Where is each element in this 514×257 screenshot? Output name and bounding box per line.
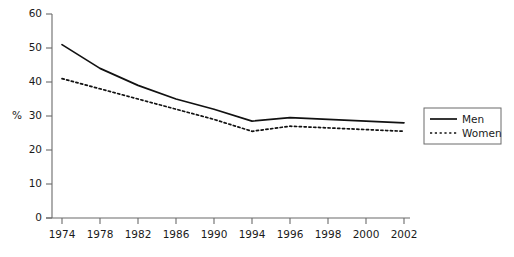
x-tick-label-2000: 2000: [353, 228, 380, 240]
legend-label-men: Men: [462, 113, 484, 125]
y-tick-label-30: 30: [29, 109, 42, 121]
x-tick-label-1998: 1998: [315, 228, 342, 240]
y-axis-tick-labels: 60 50 40 30 20 10 0: [29, 7, 42, 223]
x-tick-label-1986: 1986: [163, 228, 190, 240]
legend-label-women: Women: [462, 127, 502, 139]
series-line-women: [62, 79, 404, 132]
x-axis-tick-labels: 1974 1978 1982 1986 1990 1994 1996 1998 …: [49, 228, 418, 240]
x-tick-label-1994: 1994: [239, 228, 266, 240]
x-tick-label-1978: 1978: [87, 228, 114, 240]
y-tick-label-50: 50: [29, 41, 42, 53]
y-axis-ticks: [46, 14, 52, 218]
x-tick-label-2002: 2002: [391, 228, 418, 240]
chart-legend: Men Women: [424, 108, 502, 144]
x-tick-label-1990: 1990: [201, 228, 228, 240]
y-axis-title: %: [12, 109, 22, 121]
y-tick-label-0: 0: [35, 211, 42, 223]
y-tick-label-40: 40: [29, 75, 42, 87]
y-tick-label-20: 20: [29, 143, 42, 155]
y-tick-label-60: 60: [29, 7, 42, 19]
chart-canvas: 60 50 40 30 20 10 0 % 1974 1978 1982 198…: [0, 0, 514, 257]
x-tick-label-1982: 1982: [125, 228, 152, 240]
x-tick-label-1996: 1996: [277, 228, 304, 240]
series-line-men: [62, 45, 404, 123]
line-chart: 60 50 40 30 20 10 0 % 1974 1978 1982 198…: [0, 0, 514, 257]
y-tick-label-10: 10: [29, 177, 42, 189]
x-tick-label-1974: 1974: [49, 228, 76, 240]
x-axis-ticks: [62, 218, 404, 224]
